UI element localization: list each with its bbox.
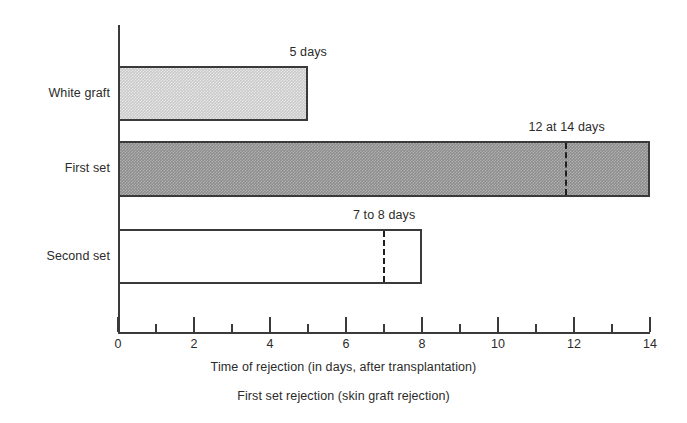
bar-marker-line [565, 143, 567, 195]
category-label-white-graft: White graft [0, 86, 110, 100]
x-tick-major [117, 317, 119, 332]
x-axis-line [118, 332, 650, 334]
x-tick-major [649, 317, 651, 332]
x-tick-minor [155, 324, 157, 332]
x-tick-minor [611, 324, 613, 332]
bar-annotation-white-graft: 5 days [290, 45, 327, 59]
bar-marker-line [383, 231, 385, 282]
chart-figure: 02468101214 White graftFirst setSecond s… [0, 0, 687, 423]
bar-annotation-second-set: 7 to 8 days [353, 208, 415, 222]
category-label-second-set: Second set [0, 249, 110, 263]
x-tick-label: 10 [478, 337, 518, 351]
category-label-first-set: First set [0, 161, 110, 175]
x-tick-label: 4 [250, 337, 290, 351]
x-tick-major [345, 317, 347, 332]
x-tick-label: 6 [326, 337, 366, 351]
x-tick-minor [535, 324, 537, 332]
x-tick-label: 14 [630, 337, 670, 351]
bar-white-graft [118, 66, 308, 121]
x-tick-minor [231, 324, 233, 332]
x-tick-minor [383, 324, 385, 332]
x-tick-major [421, 317, 423, 332]
x-axis-title: Time of rejection (in days, after transp… [0, 360, 687, 374]
x-tick-major [193, 317, 195, 332]
bar-first-set [118, 141, 650, 197]
x-tick-label: 8 [402, 337, 442, 351]
x-tick-major [269, 317, 271, 332]
x-tick-label: 12 [554, 337, 594, 351]
bar-annotation-first-set: 12 at 14 days [528, 120, 604, 134]
x-tick-major [573, 317, 575, 332]
x-tick-label: 0 [98, 337, 138, 351]
x-tick-major [497, 317, 499, 332]
x-tick-minor [307, 324, 309, 332]
x-tick-label: 2 [174, 337, 214, 351]
bar-second-set [118, 229, 422, 284]
x-tick-minor [459, 324, 461, 332]
figure-caption: First set rejection (skin graft rejectio… [0, 389, 687, 403]
